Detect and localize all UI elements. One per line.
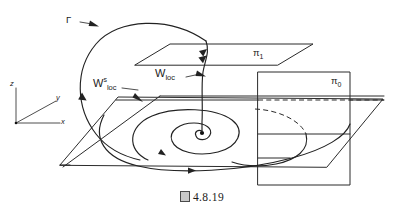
w-loc-label-sub: loc <box>165 73 175 82</box>
ws-loc-leader-line <box>122 88 138 90</box>
w-loc-leader-arrowhead <box>196 71 207 77</box>
axis-label-y: y <box>56 94 60 102</box>
w-loc-label: Wloc <box>155 68 175 82</box>
ws-loc-label-base: W <box>93 77 103 89</box>
base-plane-outline <box>60 97 383 167</box>
gamma-arrowhead-left <box>78 93 86 101</box>
figure-box-glyph-icon <box>180 191 190 202</box>
stable-spiral <box>133 110 239 160</box>
plane-pi1 <box>135 44 313 65</box>
ws-loc-label-sub: loc <box>107 83 117 92</box>
ws-loc-edge-line <box>63 96 160 167</box>
outer-base-trajectory <box>99 115 350 174</box>
gamma-label: Γ <box>66 15 71 25</box>
visible-return-curve <box>232 134 307 166</box>
base-plane <box>60 97 383 167</box>
pi0-label: π0 <box>331 76 341 88</box>
spiral-inward-path <box>133 110 239 160</box>
axis-triad <box>15 88 60 124</box>
return-loop-through-pi0 <box>60 100 384 166</box>
figure-caption: 4.8.19 <box>0 191 404 203</box>
axis-label-z: z <box>10 80 14 88</box>
figure-container: z y x Γ Wsloc Wloc π1 π0 4.8.19 <box>0 0 404 219</box>
pi1-label-sub: 1 <box>260 53 264 60</box>
outer-trajectory-path <box>99 115 350 171</box>
plane-pi1-outline <box>135 44 313 65</box>
plane-pi0-outline <box>258 72 350 185</box>
axis-origin-dot <box>15 122 18 125</box>
gamma-arrowhead-pi1 <box>199 49 207 57</box>
w-loc-label-base: W <box>155 67 165 79</box>
hidden-curve-behind-pi0 <box>255 109 306 134</box>
ws-loc-label: Wsloc <box>93 76 116 91</box>
plane-pi0 <box>258 72 350 185</box>
figure-caption-number: 4.8.19 <box>193 191 224 203</box>
axis-label-x: x <box>61 118 65 126</box>
y-axis <box>16 101 56 123</box>
pi1-label: π1 <box>253 48 263 60</box>
dynamical-systems-diagram <box>0 0 404 219</box>
plane-intersection-lines <box>116 100 384 158</box>
outer-trajectory-arrowhead <box>188 168 196 174</box>
spiral-arrowhead <box>158 149 166 156</box>
gamma-leader-arrowhead <box>89 21 99 27</box>
pi0-label-sub: 0 <box>338 81 342 88</box>
